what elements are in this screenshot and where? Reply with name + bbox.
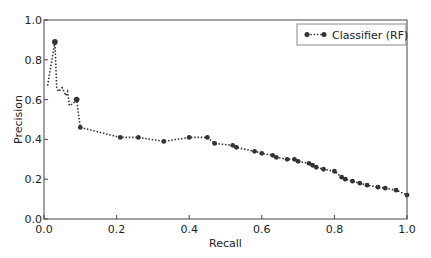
y-tick-label: 0.4 <box>25 133 43 146</box>
x-tick-label: 1.0 <box>398 223 416 236</box>
data-point-marker <box>74 97 80 103</box>
y-axis-label: Precision <box>12 95 25 144</box>
y-tick-label: 0.6 <box>25 94 43 107</box>
data-point-marker <box>314 165 319 170</box>
x-axis-label: Recall <box>209 237 242 250</box>
data-point-marker <box>234 145 239 150</box>
data-point-marker <box>350 179 355 184</box>
data-point-marker <box>161 139 166 144</box>
data-point-marker <box>296 159 301 164</box>
axis-ticks: 0.00.20.40.60.81.00.00.20.40.60.81.0 <box>25 14 416 236</box>
data-point-marker <box>321 167 326 172</box>
x-tick-label: 0.6 <box>253 223 271 236</box>
data-point-marker <box>252 149 257 154</box>
data-point-marker <box>52 39 58 45</box>
data-point-marker <box>118 135 123 140</box>
data-point-marker <box>343 177 348 182</box>
legend-marker-icon <box>322 32 327 37</box>
y-tick-label: 1.0 <box>25 14 43 27</box>
legend: Classifier (RF) <box>297 24 408 45</box>
data-point-marker <box>187 135 192 140</box>
data-point-marker <box>212 141 217 146</box>
series-markers <box>52 39 409 197</box>
data-point-marker <box>136 135 141 140</box>
y-tick-label: 0.8 <box>25 54 43 67</box>
y-tick-label: 0.0 <box>25 213 43 226</box>
data-point-marker <box>259 151 264 156</box>
data-point-marker <box>78 125 83 130</box>
data-point-marker <box>274 155 279 160</box>
data-point-marker <box>394 188 399 193</box>
data-point-marker <box>365 183 370 188</box>
x-tick-label: 0.8 <box>326 223 344 236</box>
data-point-marker <box>357 181 362 186</box>
data-point-marker <box>332 169 337 174</box>
data-point-marker <box>376 185 381 190</box>
x-tick-label: 0.4 <box>180 223 198 236</box>
data-point-marker <box>383 186 388 191</box>
legend-label: Classifier (RF) <box>332 29 408 42</box>
data-point-marker <box>205 135 210 140</box>
y-tick-label: 0.2 <box>25 173 43 186</box>
legend-marker-icon <box>305 32 310 37</box>
plot-frame <box>44 20 407 219</box>
data-point-marker <box>285 157 290 162</box>
precision-recall-chart: 0.00.20.40.60.81.00.00.20.40.60.81.0 Rec… <box>0 0 431 258</box>
series-line <box>48 42 407 195</box>
x-tick-label: 0.2 <box>108 223 126 236</box>
